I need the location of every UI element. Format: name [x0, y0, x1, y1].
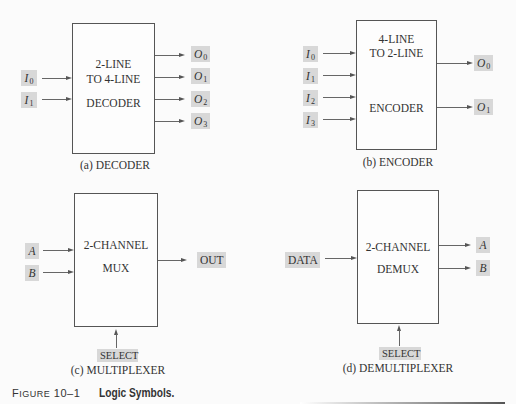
mux-block: 2-CHANNEL MUX [74, 193, 158, 327]
arrow-icon [350, 73, 356, 77]
mux-select-line [116, 334, 117, 348]
demux-output-b: B [476, 260, 490, 276]
encoder-caption: (b) ENCODER [355, 156, 441, 168]
demux-text-line2: DEMUX [358, 263, 438, 276]
demux-output-a: A [476, 237, 490, 253]
demux-input-data: DATA [285, 252, 320, 268]
arrow-icon [465, 243, 471, 247]
encoder-input-line-i3 [323, 119, 350, 120]
encoder-output-o0: O0 [474, 55, 493, 71]
decoder-caption: (a) DECODER [70, 159, 160, 171]
decoder-output-o0: O0 [191, 46, 210, 62]
mux-select: SELECT [97, 349, 138, 362]
encoder-input-line-i0 [323, 53, 350, 54]
figure-number: FIGURE 10–1 [12, 387, 80, 399]
decoder-input-i0: I0 [21, 70, 37, 86]
arrow-icon [350, 117, 356, 121]
arrow-icon [179, 119, 185, 123]
demux-caption: (d) DEMULTIPLEXER [342, 362, 454, 374]
encoder-text-line2: TO 2-LINE [357, 47, 436, 60]
decoder-input-i1: I1 [21, 92, 37, 108]
demux-select: SELECT [379, 347, 421, 360]
encoder-input-i1: I1 [303, 68, 318, 84]
mux-output-out: OUT [197, 252, 226, 268]
arrow-icon [179, 75, 185, 79]
arrow-icon [350, 95, 356, 99]
arrow-icon [68, 248, 74, 252]
arrow-icon [351, 256, 357, 260]
decoder-output-o3: O3 [191, 113, 210, 129]
demux-select-line [399, 330, 400, 346]
mux-input-b: B [25, 265, 39, 281]
mux-input-line-a [43, 250, 68, 251]
mux-text-line1: 2-CHANNEL [75, 239, 157, 252]
demux-block: 2-CHANNEL DEMUX [357, 190, 439, 324]
demux-output-line-b [439, 268, 465, 269]
decoder-text-line3: DECODER [73, 97, 154, 110]
decoder-input-line-i1 [42, 99, 66, 100]
decoder-output-line-o2 [155, 99, 179, 100]
decoder-text-line1: 2-LINE [73, 58, 154, 71]
mux-input-a: A [25, 243, 39, 259]
arrow-icon [467, 61, 473, 65]
encoder-output-o1: O1 [474, 99, 493, 115]
arrow-icon [350, 51, 356, 55]
arrow-icon [66, 76, 72, 80]
mux-input-line-b [43, 272, 68, 273]
mux-text-line2: MUX [75, 262, 157, 275]
mux-caption: (c) MULTIPLEXER [70, 364, 166, 376]
arrow-icon [68, 270, 74, 274]
encoder-input-line-i2 [323, 97, 350, 98]
encoder-input-i3: I3 [303, 112, 318, 128]
figure-title: FIGURE 10–1 Logic Symbols. [12, 383, 187, 401]
decoder-text-line2: TO 4-LINE [73, 73, 154, 86]
demux-output-line-a [439, 245, 465, 246]
demux-text-line1: 2-CHANNEL [358, 241, 438, 254]
figure-caption-title: Logic Symbols. [99, 386, 174, 400]
decoder-output-o1: O1 [191, 68, 210, 84]
decoder-input-line-i0 [42, 78, 66, 79]
decoder-output-o2: O2 [191, 91, 210, 107]
encoder-output-line-o0 [437, 63, 467, 64]
arrow-icon [179, 53, 185, 57]
arrow-icon [181, 258, 187, 262]
arrow-icon [465, 266, 471, 270]
encoder-input-line-i1 [323, 75, 350, 76]
encoder-text-line3: ENCODER [357, 102, 436, 115]
encoder-block: 4-LINE TO 2-LINE ENCODER [356, 20, 437, 150]
encoder-text-line1: 4-LINE [357, 33, 436, 46]
decoder-output-line-o0 [155, 55, 179, 56]
decoder-output-line-o1 [155, 77, 179, 78]
encoder-input-i0: I0 [303, 46, 318, 62]
decoder-output-line-o3 [155, 121, 179, 122]
arrow-icon [66, 97, 72, 101]
arrow-icon [467, 105, 473, 109]
arrow-icon [179, 97, 185, 101]
decoder-block: 2-LINE TO 4-LINE DECODER [72, 23, 155, 154]
encoder-input-i2: I2 [303, 90, 318, 106]
demux-input-line [325, 258, 351, 259]
encoder-output-line-o1 [437, 107, 467, 108]
mux-output-line [158, 260, 181, 261]
